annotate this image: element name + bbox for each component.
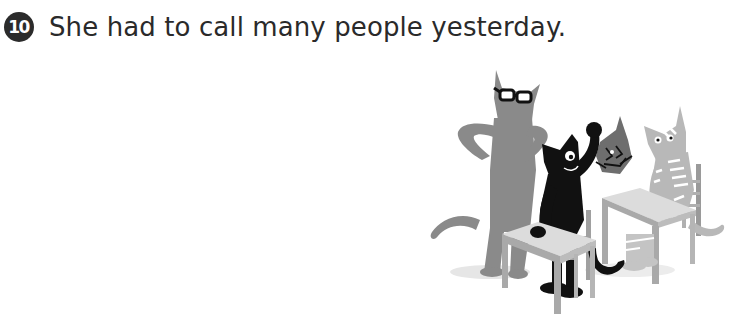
small-dark-gray-cat: [596, 116, 632, 174]
exercise-sentence: She had to call many people yesterday.: [49, 10, 566, 44]
exercise-item: 10 She had to call many people yesterday…: [4, 10, 566, 44]
black-cat-paw: [530, 226, 546, 238]
exercise-number-badge: 10: [4, 12, 34, 42]
cats-classroom-illustration: [420, 60, 743, 324]
